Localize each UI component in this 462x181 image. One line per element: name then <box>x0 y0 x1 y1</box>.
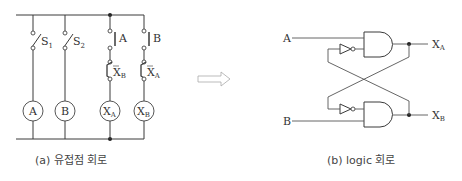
hollow-arrow-icon <box>198 72 230 86</box>
input-b-label: B <box>283 115 291 128</box>
caption-logic-circuit: (b) logic 회로 <box>327 151 395 167</box>
switch-s1-label: S1 <box>41 35 53 50</box>
logic-circuit: A B XA XB <box>282 32 446 128</box>
not-gate-top <box>340 44 351 54</box>
switch-s1-branch <box>23 15 43 139</box>
and-gate-bottom <box>364 102 393 127</box>
switch-s2-label: S2 <box>73 35 85 50</box>
contact-a-label: A <box>118 32 128 45</box>
contact-b-label: B <box>153 32 161 45</box>
contact-xa-nc-label: XA <box>147 66 161 80</box>
switch-s2-branch <box>55 15 75 139</box>
coil-a-label: A <box>28 105 38 118</box>
contact-xb-nc-label: XB <box>113 66 126 80</box>
and-gate-top <box>364 32 393 57</box>
coil-b-label: B <box>61 105 69 118</box>
relay-circuit: S1 S2 A B XB XA A B XA XB <box>16 13 161 141</box>
output-xb-label: XB <box>432 109 445 123</box>
output-xa-label: XA <box>432 38 446 52</box>
not-gate-bottom <box>340 104 351 114</box>
input-a-label: A <box>282 32 292 45</box>
caption-relay-circuit: (a) 유접점 회로 <box>35 151 107 167</box>
